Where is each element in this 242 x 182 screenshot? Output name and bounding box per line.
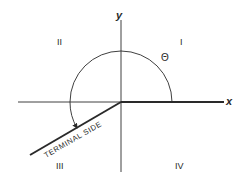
y-axis-label: y	[115, 9, 123, 21]
angle-diagram: y x II I III IV Θ TERMINAL SIDE	[0, 0, 242, 182]
terminal-side-label: TERMINAL SIDE	[43, 119, 104, 159]
quadrant-4-label: IV	[175, 161, 184, 171]
terminal-side	[30, 102, 121, 155]
theta-label: Θ	[161, 52, 169, 63]
quadrant-3-label: III	[56, 161, 64, 171]
x-axis-label: x	[225, 95, 233, 107]
quadrant-2-label: II	[57, 37, 62, 47]
quadrant-1-label: I	[180, 37, 183, 47]
